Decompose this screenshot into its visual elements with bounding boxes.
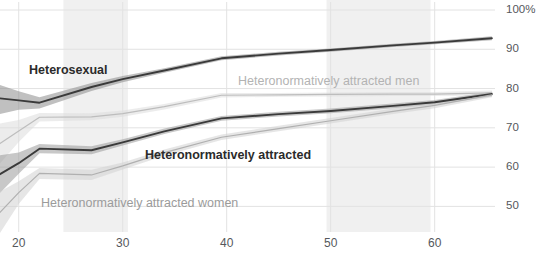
y-tick-label-60: 60 bbox=[506, 160, 519, 172]
y-tick-label-50: 50 bbox=[506, 199, 519, 211]
series-annotation-1: Heteronormatively attracted men bbox=[238, 74, 419, 88]
x-axis-tick-labels: 2030405060 bbox=[12, 236, 442, 250]
x-tick-label-20: 20 bbox=[12, 236, 26, 250]
line-chart-svg: 5060708090100% 2030405060 HeterosexualHe… bbox=[0, 0, 545, 256]
y-tick-label-100: 100% bbox=[506, 3, 535, 15]
series-annotation-2: Heteronormatively attracted bbox=[145, 148, 311, 162]
y-tick-label-80: 80 bbox=[506, 82, 519, 94]
x-tick-label-50: 50 bbox=[324, 236, 338, 250]
y-axis-tick-labels: 5060708090100% bbox=[506, 3, 535, 211]
y-tick-label-90: 90 bbox=[506, 42, 519, 54]
series-annotation-3: Heteronormatively attracted women bbox=[41, 196, 238, 210]
x-tick-label-30: 30 bbox=[116, 236, 130, 250]
series-annotation-0: Heterosexual bbox=[29, 63, 108, 77]
chart-container: 5060708090100% 2030405060 HeterosexualHe… bbox=[0, 0, 545, 256]
x-tick-label-40: 40 bbox=[220, 236, 234, 250]
x-tick-label-60: 60 bbox=[428, 236, 442, 250]
y-tick-label-70: 70 bbox=[506, 121, 519, 133]
